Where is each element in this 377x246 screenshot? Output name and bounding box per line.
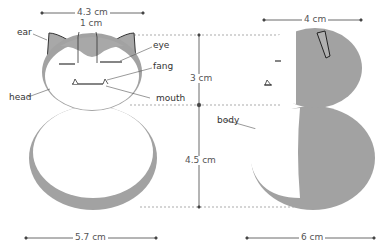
dim-body-depth: 6 cm	[299, 233, 325, 242]
side-head-white	[254, 30, 296, 104]
label-body: body	[217, 116, 239, 125]
label-head: head	[9, 93, 31, 102]
label-mouth: mouth	[156, 94, 185, 103]
label-fang: fang	[153, 62, 173, 71]
side-view-figure	[249, 28, 375, 210]
dim-head-height: 3 cm	[188, 74, 214, 83]
front-view-figure	[29, 32, 157, 210]
dim-body-width: 5.7 cm	[73, 233, 108, 242]
side-body-white	[249, 108, 300, 198]
dim-head-depth: 4 cm	[302, 15, 328, 24]
label-eye: eye	[153, 41, 169, 50]
dim-forehead-patch: 1 cm	[78, 19, 104, 28]
label-ear: ear	[17, 28, 32, 37]
dim-head-width: 4.3 cm	[75, 8, 110, 17]
dim-body-height: 4.5 cm	[183, 156, 218, 165]
front-body-inner	[33, 106, 153, 198]
diagram-canvas	[0, 0, 377, 246]
